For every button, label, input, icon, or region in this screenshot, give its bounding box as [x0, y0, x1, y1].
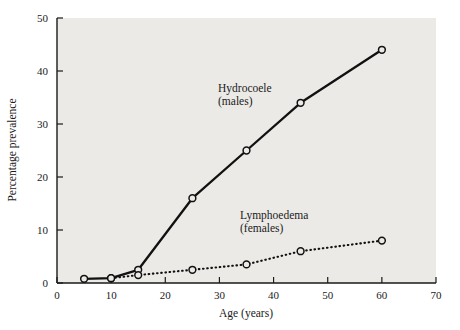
data-point-marker: [297, 99, 304, 106]
prevalence-line-chart: 01020304050 010203040506070 Hydrocoele (…: [0, 0, 460, 330]
lymphoedema-label-line1: Lymphoedema: [240, 209, 308, 222]
x-axis-title: Age (years): [219, 307, 273, 320]
data-point-marker: [135, 272, 142, 279]
x-tick-label: 10: [106, 289, 118, 301]
x-tick-label: 40: [268, 289, 280, 301]
y-axis-tick-labels: 01020304050: [37, 12, 49, 289]
x-tick-label: 60: [376, 289, 388, 301]
x-tick-label: 70: [431, 289, 443, 301]
data-point-marker: [81, 275, 88, 282]
data-point-marker: [243, 147, 250, 154]
hydrocoele-label-line1: Hydrocoele: [218, 82, 272, 95]
y-tick-label: 20: [37, 171, 49, 183]
x-tick-label: 30: [214, 289, 226, 301]
data-point-marker: [189, 266, 196, 273]
y-tick-label: 50: [37, 12, 49, 24]
y-tick-label: 0: [43, 277, 49, 289]
y-axis-title: Percentage prevalence: [6, 98, 19, 201]
y-tick-label: 30: [37, 118, 49, 130]
data-point-marker: [297, 248, 304, 255]
hydrocoele-label-line2: (males): [218, 95, 253, 108]
chart-figure: 01020304050 010203040506070 Hydrocoele (…: [0, 0, 460, 330]
data-point-marker: [379, 237, 386, 244]
x-axis-tick-labels: 010203040506070: [54, 289, 442, 301]
lymphoedema-label-line2: (females): [240, 222, 284, 235]
data-point-marker: [108, 275, 115, 282]
y-tick-label: 10: [37, 224, 49, 236]
x-tick-label: 50: [322, 289, 334, 301]
data-point-marker: [189, 195, 196, 202]
data-point-marker: [379, 46, 386, 53]
y-tick-label: 40: [37, 65, 49, 77]
x-tick-label: 0: [54, 289, 60, 301]
x-tick-label: 20: [160, 289, 172, 301]
data-point-marker: [243, 261, 250, 268]
